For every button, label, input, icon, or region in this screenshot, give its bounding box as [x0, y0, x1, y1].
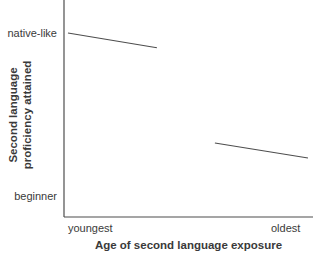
- x-tick-label-youngest: youngest: [68, 222, 113, 234]
- x-tick-label-oldest: oldest: [271, 222, 300, 234]
- x-axis-title: Age of second language exposure: [64, 239, 313, 251]
- y-axis-title-line2: proficiency attained: [20, 29, 34, 201]
- data-line-late-exposure-segment: [215, 143, 308, 158]
- y-axis-title-line1: Second language: [6, 29, 20, 201]
- data-line-early-exposure-segment: [68, 33, 157, 48]
- proficiency-vs-age-chart: native-like beginner Second language pro…: [0, 0, 313, 253]
- y-axis-title: Second language proficiency attained: [6, 29, 34, 201]
